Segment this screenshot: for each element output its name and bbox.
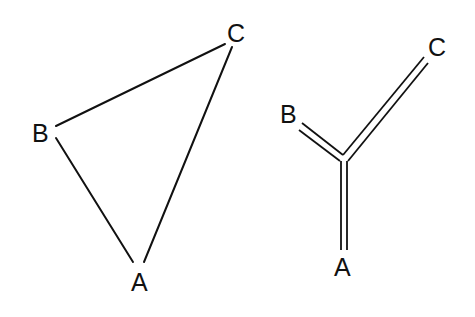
triangle-label-a: A <box>131 268 148 296</box>
tree-label-c: C <box>428 33 446 61</box>
tree-label-b: B <box>280 100 297 128</box>
edge-b-c <box>56 44 225 126</box>
edge-center-c-outer <box>343 57 424 155</box>
edge-center-c-inner <box>348 63 428 161</box>
tree-label-a: A <box>334 253 351 281</box>
tree-diagram <box>299 57 428 250</box>
edge-b-a <box>56 138 133 262</box>
edge-center-b-outer <box>302 123 343 155</box>
triangle-label-c: C <box>227 19 245 47</box>
diagram-canvas: C B A C B A <box>0 0 475 317</box>
triangle-label-b: B <box>32 119 49 147</box>
edge-c-a <box>144 47 232 262</box>
edge-center-b-inner <box>299 130 340 161</box>
triangle-diagram <box>56 44 232 262</box>
